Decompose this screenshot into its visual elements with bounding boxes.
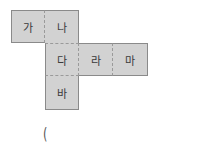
net-face-ga: 가 bbox=[11, 10, 45, 43]
net-face-ba: 바 bbox=[45, 76, 79, 110]
net-face-ma: 마 bbox=[113, 43, 148, 76]
net-face-na: 나 bbox=[45, 10, 79, 43]
answer-open-paren: ( bbox=[43, 124, 47, 143]
net-face-da: 다 bbox=[45, 43, 79, 76]
net-face-ra: 라 bbox=[79, 43, 113, 76]
